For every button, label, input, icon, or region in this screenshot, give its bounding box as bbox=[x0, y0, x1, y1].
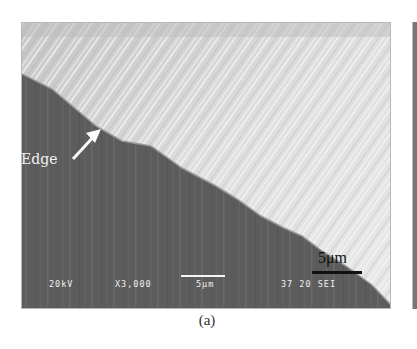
sem-magnification: X3,000 bbox=[115, 279, 152, 289]
sem-scale-bar bbox=[181, 275, 225, 277]
sem-id: 37 20 SEI bbox=[281, 279, 336, 289]
scale-bar-label: 5μm bbox=[318, 249, 347, 267]
sem-voltage: 20kV bbox=[49, 279, 73, 289]
figure-caption: (a) bbox=[0, 312, 414, 329]
edge-label: Edge bbox=[21, 151, 57, 167]
adjacent-panel-edge bbox=[412, 22, 417, 309]
scale-bar bbox=[312, 271, 362, 274]
sem-scale: 5μm bbox=[196, 279, 214, 289]
